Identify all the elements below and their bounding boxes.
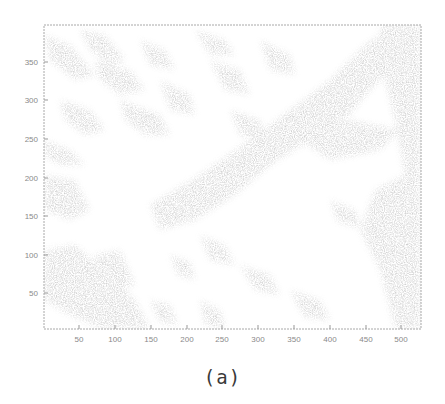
svg-text:350: 350 bbox=[25, 58, 39, 67]
svg-text:350: 350 bbox=[287, 335, 301, 344]
svg-text:50: 50 bbox=[29, 289, 38, 298]
svg-text:50: 50 bbox=[75, 335, 84, 344]
svg-text:400: 400 bbox=[323, 335, 337, 344]
svg-text:200: 200 bbox=[25, 174, 39, 183]
svg-text:450: 450 bbox=[359, 335, 373, 344]
svg-text:200: 200 bbox=[180, 335, 194, 344]
svg-text:300: 300 bbox=[25, 96, 39, 105]
svg-text:300: 300 bbox=[251, 335, 265, 344]
svg-text:100: 100 bbox=[25, 251, 39, 260]
svg-text:250: 250 bbox=[215, 335, 229, 344]
figure-caption: (a) bbox=[0, 366, 445, 388]
svg-text:500: 500 bbox=[394, 335, 408, 344]
svg-text:100: 100 bbox=[108, 335, 122, 344]
heatmap-figure: 350 300 250 200 150 100 50 50 100 150 20… bbox=[0, 0, 445, 404]
svg-text:150: 150 bbox=[144, 335, 158, 344]
plot-area bbox=[44, 25, 421, 329]
svg-text:250: 250 bbox=[25, 135, 39, 144]
svg-text:150: 150 bbox=[25, 212, 39, 221]
